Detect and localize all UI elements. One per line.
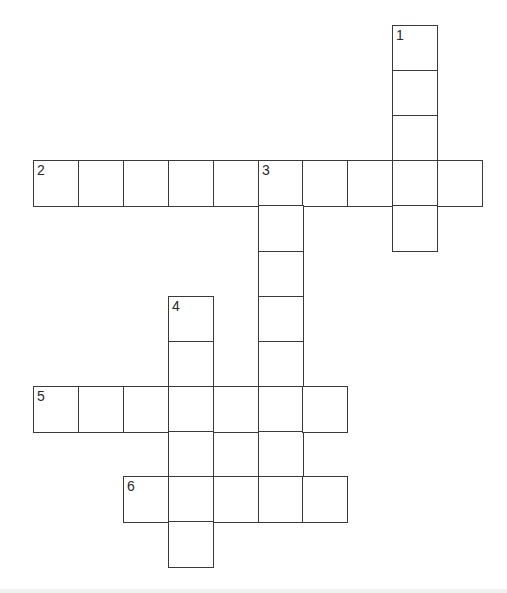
- cell-letter-input[interactable]: [169, 432, 213, 477]
- cell-letter-input[interactable]: [259, 252, 303, 297]
- crossword-grid: 123456: [0, 0, 507, 593]
- crossword-cell[interactable]: [302, 160, 348, 207]
- cell-letter-input[interactable]: [34, 161, 78, 206]
- cell-letter-input[interactable]: [259, 342, 303, 387]
- crossword-cell[interactable]: [213, 476, 259, 523]
- cell-letter-input[interactable]: [79, 387, 123, 432]
- crossword-cell[interactable]: [258, 386, 304, 433]
- crossword-cell[interactable]: [302, 386, 348, 433]
- cell-letter-input[interactable]: [169, 477, 213, 522]
- crossword-cell[interactable]: 6: [123, 476, 169, 523]
- crossword-cell[interactable]: [258, 341, 304, 388]
- crossword-cell[interactable]: [213, 386, 259, 433]
- cell-letter-input[interactable]: [393, 26, 437, 71]
- crossword-cell[interactable]: [437, 160, 483, 207]
- crossword-cell[interactable]: [258, 205, 304, 252]
- crossword-cell[interactable]: [258, 476, 304, 523]
- crossword-cell[interactable]: [258, 431, 304, 478]
- cell-letter-input[interactable]: [79, 161, 123, 206]
- cell-letter-input[interactable]: [438, 161, 482, 206]
- crossword-cell[interactable]: [123, 160, 169, 207]
- crossword-cell[interactable]: [78, 386, 124, 433]
- crossword-cell[interactable]: [168, 431, 214, 478]
- cell-letter-input[interactable]: [169, 297, 213, 342]
- crossword-cell[interactable]: [213, 160, 259, 207]
- cell-letter-input[interactable]: [124, 161, 168, 206]
- crossword-cell[interactable]: 5: [33, 386, 79, 433]
- crossword-cell[interactable]: 1: [392, 25, 438, 72]
- cell-letter-input[interactable]: [259, 297, 303, 342]
- cell-letter-input[interactable]: [124, 387, 168, 432]
- crossword-cell[interactable]: [392, 205, 438, 252]
- cell-letter-input[interactable]: [259, 161, 303, 206]
- cell-letter-input[interactable]: [393, 71, 437, 116]
- crossword-cell[interactable]: [258, 251, 304, 298]
- cell-letter-input[interactable]: [393, 116, 437, 161]
- crossword-cell[interactable]: [302, 476, 348, 523]
- crossword-cell[interactable]: 2: [33, 160, 79, 207]
- crossword-cell[interactable]: 3: [258, 160, 304, 207]
- cell-letter-input[interactable]: [124, 477, 168, 522]
- cell-letter-input[interactable]: [214, 387, 258, 432]
- cell-letter-input[interactable]: [348, 161, 392, 206]
- crossword-cell[interactable]: [78, 160, 124, 207]
- crossword-cell[interactable]: [123, 386, 169, 433]
- crossword-cell[interactable]: [392, 115, 438, 162]
- cell-letter-input[interactable]: [169, 522, 213, 567]
- crossword-cell[interactable]: 4: [168, 296, 214, 343]
- page-bottom-edge: [0, 589, 507, 593]
- crossword-cell[interactable]: [168, 476, 214, 523]
- crossword-cell[interactable]: [392, 160, 438, 207]
- cell-letter-input[interactable]: [393, 206, 437, 251]
- cell-letter-input[interactable]: [259, 477, 303, 522]
- cell-letter-input[interactable]: [259, 206, 303, 251]
- cell-letter-input[interactable]: [303, 161, 347, 206]
- crossword-cell[interactable]: [168, 521, 214, 568]
- cell-letter-input[interactable]: [303, 387, 347, 432]
- crossword-cell[interactable]: [168, 386, 214, 433]
- cell-letter-input[interactable]: [303, 477, 347, 522]
- cell-letter-input[interactable]: [393, 161, 437, 206]
- crossword-cell[interactable]: [392, 70, 438, 117]
- cell-letter-input[interactable]: [214, 161, 258, 206]
- crossword-cell[interactable]: [168, 160, 214, 207]
- cell-letter-input[interactable]: [259, 432, 303, 477]
- cell-letter-input[interactable]: [34, 387, 78, 432]
- crossword-cell[interactable]: [168, 341, 214, 388]
- crossword-cell[interactable]: [347, 160, 393, 207]
- cell-letter-input[interactable]: [214, 477, 258, 522]
- cell-letter-input[interactable]: [169, 342, 213, 387]
- cell-letter-input[interactable]: [169, 387, 213, 432]
- cell-letter-input[interactable]: [259, 387, 303, 432]
- crossword-cell[interactable]: [258, 296, 304, 343]
- cell-letter-input[interactable]: [169, 161, 213, 206]
